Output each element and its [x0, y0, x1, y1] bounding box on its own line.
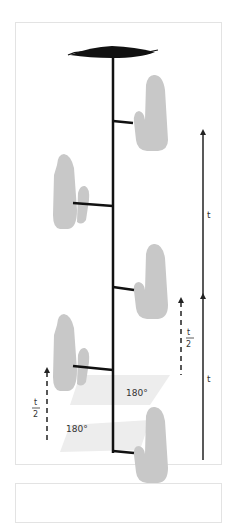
arrow-t-upper — [200, 129, 206, 295]
svg-text:t: t — [34, 398, 37, 407]
svg-text:2: 2 — [33, 410, 38, 419]
label-half-t-right: t 2 — [186, 328, 194, 349]
hand-icon-3 — [134, 244, 168, 319]
label-t-upper: t — [207, 210, 211, 220]
arm-5 — [113, 451, 134, 453]
svg-text:2: 2 — [186, 340, 191, 349]
label-angle-upper: 180° — [126, 388, 148, 398]
label-angle-lower: 180° — [66, 424, 88, 434]
label-t-lower: t — [207, 374, 211, 384]
dashed-arrow-left — [44, 367, 50, 442]
svg-text:t: t — [187, 328, 190, 337]
hand-icon-2 — [53, 154, 89, 229]
arm-3 — [113, 287, 134, 290]
hand-icon-1 — [134, 75, 168, 151]
dashed-arrow-right — [178, 297, 184, 375]
arrow-t-lower — [200, 293, 206, 460]
label-half-t-left: t 2 — [32, 398, 40, 419]
arm-1 — [113, 121, 133, 123]
hand-icon-4 — [53, 314, 89, 391]
